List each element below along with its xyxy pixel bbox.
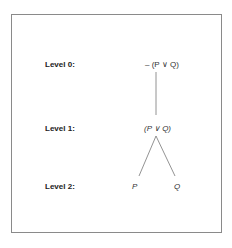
level-2-label: Level 2: (45, 182, 75, 191)
level-0-node: – (P ∨ Q) (145, 60, 179, 69)
level-1-node: (P ∨ Q) (144, 124, 171, 133)
level-0-label: Level 0: (45, 60, 75, 69)
level-2-node-q: Q (174, 182, 180, 191)
edge-level1-q (156, 136, 175, 176)
tree-edges (0, 0, 232, 248)
edge-level1-p (139, 136, 156, 176)
level-2-node-p: P (132, 182, 137, 191)
level-1-label: Level 1: (45, 124, 75, 133)
